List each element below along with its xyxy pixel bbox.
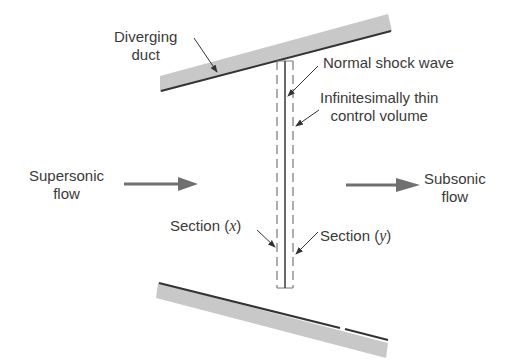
section-x-prefix: Section ( — [170, 217, 229, 234]
section-y-label: Section (y) — [320, 227, 391, 245]
control-volume-label: Infinitesimally thin control volume — [320, 89, 438, 125]
supersonic-flow-label: Supersonic flow — [29, 167, 104, 203]
lower-duct-wall — [156, 283, 388, 358]
section-x-label: Section (x) — [170, 217, 241, 235]
supersonic-flow-arrow — [124, 177, 198, 191]
diverging-duct-label-line1: Diverging — [114, 28, 177, 46]
control-volume-label-line2: control volume — [320, 107, 438, 125]
section-y-suffix: ) — [386, 227, 391, 244]
section-y-prefix: Section ( — [320, 227, 379, 244]
upper-duct-wall — [160, 14, 392, 92]
normal-shock-label: Normal shock wave — [323, 54, 454, 72]
diverging-duct-label: Diverging duct — [114, 28, 177, 64]
subsonic-flow-arrow — [346, 178, 420, 192]
subsonic-flow-label: Subsonic flow — [424, 170, 486, 206]
subsonic-label-line1: Subsonic — [424, 170, 486, 188]
section-x-suffix: ) — [236, 217, 241, 234]
section-x-leader-arrow — [257, 230, 275, 247]
section-y-leader-arrow — [296, 232, 318, 254]
diverging-duct-label-line2: duct — [114, 46, 177, 64]
subsonic-label-line2: flow — [424, 188, 486, 206]
supersonic-label-line1: Supersonic — [29, 167, 104, 185]
supersonic-label-line2: flow — [29, 185, 104, 203]
cv-leader-arrow — [296, 110, 319, 126]
control-volume-label-line1: Infinitesimally thin — [320, 89, 438, 107]
